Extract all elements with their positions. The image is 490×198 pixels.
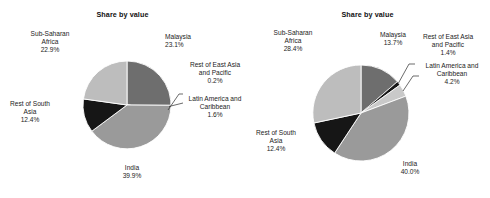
pie-label-malaysia: Malaysia 13.7% <box>369 31 417 47</box>
pie-slices-left <box>83 61 171 149</box>
slice-malaysia <box>127 61 171 110</box>
pie-label-sub-saharan-africa: Sub-Saharan Africa 22.9% <box>22 30 78 54</box>
pie-label-india: India 39.9% <box>112 164 152 180</box>
figure-container: Share by value Malays <box>0 0 490 198</box>
slice-sub-saharan-africa <box>83 61 127 105</box>
leader-line-rest-of-east-asia-and-pacific <box>399 64 416 83</box>
pie-label-sub-saharan-africa: Sub-Saharan Africa 28.4% <box>265 29 321 53</box>
pie-label-latin-america-and-caribbean: Latin America and Caribbean 4.2% <box>419 62 485 86</box>
pie-chart-panel-right: Share by value Malays <box>245 0 490 198</box>
pie-label-rest-of-south-asia: Rest of South Asia 12.4% <box>2 100 58 124</box>
pie-label-latin-america-and-caribbean: Latin America and Caribbean 1.6% <box>184 95 246 119</box>
pie-label-india: India 40.0% <box>390 160 430 176</box>
leader-line-latin-america-and-caribbean <box>403 76 419 91</box>
pie-label-rest-of-east-asia-and-pacific: Rest of East Asia and Pacific 1.4% <box>417 33 479 57</box>
pie-label-rest-of-east-asia-and-pacific: Rest of East Asia and Pacific 0.2% <box>184 61 246 85</box>
pie-label-malaysia: Malaysia 23.1% <box>165 33 225 49</box>
pie-chart-panel-left: Share by value Malays <box>0 0 245 198</box>
pie-label-rest-of-south-asia: Rest of South Asia 12.4% <box>248 129 304 153</box>
pie-slices-right <box>313 65 409 161</box>
slice-sub-saharan-africa <box>313 65 361 123</box>
